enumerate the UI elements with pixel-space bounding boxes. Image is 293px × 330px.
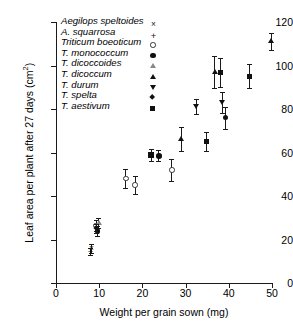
error-bar-cap-top xyxy=(212,56,217,57)
error-bar-cap-bottom xyxy=(156,161,161,162)
error-bar-cap-bottom xyxy=(220,113,225,114)
point-marker-triangle-up-filled-icon xyxy=(268,38,274,43)
point-marker-triangle-up-filled-icon xyxy=(178,136,184,141)
point-marker-square-filled-icon xyxy=(247,74,252,79)
error-bar-cap-bottom xyxy=(133,194,138,195)
error-bar-cap-top xyxy=(204,132,209,133)
error-bar-cap-top xyxy=(218,58,223,59)
error-bar-cap-top xyxy=(194,99,199,100)
error-bar-cap-top xyxy=(223,107,228,108)
point-marker-circle-open-icon xyxy=(123,176,129,182)
error-bar-cap-bottom xyxy=(123,188,128,189)
error-bar-cap-bottom xyxy=(179,151,184,152)
error-bar-cap-top xyxy=(179,127,184,128)
error-bar-cap-bottom xyxy=(94,233,99,234)
point-marker-circle-open-icon xyxy=(132,182,138,188)
point-marker-circle-open-icon xyxy=(169,167,175,173)
point-marker-triangle-down-filled-icon xyxy=(193,104,199,109)
error-bar-cap-bottom xyxy=(194,114,199,115)
error-bar-cap-bottom xyxy=(169,181,174,182)
error-bar-cap-top xyxy=(133,176,138,177)
point-marker-square-filled-icon xyxy=(218,70,223,75)
error-bar-cap-bottom xyxy=(149,161,154,162)
point-marker-square-filled-icon xyxy=(148,152,153,157)
point-marker-circle-filled-icon xyxy=(156,153,162,159)
error-bar-cap-bottom xyxy=(218,87,223,88)
error-bar-cap-top xyxy=(123,169,128,170)
error-bar-cap-bottom xyxy=(223,129,228,130)
error-bar-cap-bottom xyxy=(269,50,274,51)
error-bar-cap-bottom xyxy=(212,88,217,89)
error-bar-cap-bottom xyxy=(95,236,100,237)
point-marker-triangle-up-filled-icon xyxy=(212,69,218,74)
scatter-chart: 020406080100120 01020304050 Leaf area pe… xyxy=(0,0,293,330)
plot-area: ×+ xyxy=(0,0,293,330)
error-bar-cap-top xyxy=(220,92,225,93)
point-marker-triangle-down-filled-icon xyxy=(219,100,225,105)
error-bar-cap-top xyxy=(247,64,252,65)
error-bar-cap-top xyxy=(269,33,274,34)
point-marker-square-filled-icon xyxy=(204,139,209,144)
error-bar-cap-bottom xyxy=(204,151,209,152)
error-bar-cap-bottom xyxy=(247,88,252,89)
point-marker-plus-icon: + xyxy=(87,248,94,255)
error-bar-cap-top xyxy=(96,218,101,219)
error-bar-cap-top xyxy=(169,159,174,160)
point-marker-circle-filled-icon xyxy=(223,115,229,121)
error-bar-cap-top xyxy=(149,149,154,150)
error-bar-cap-top xyxy=(156,150,161,151)
